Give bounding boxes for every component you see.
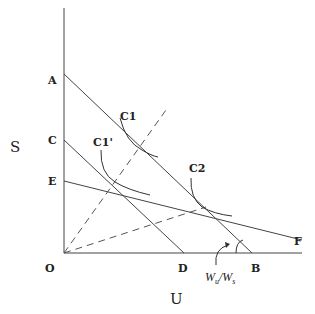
line-ef	[64, 181, 302, 240]
slope-annotation: Wu/Ws	[205, 270, 235, 286]
ray-to-c2	[64, 207, 206, 253]
x-axis-label: U	[170, 290, 183, 308]
point-f-label: F	[294, 235, 302, 248]
point-a-label: A	[47, 74, 57, 87]
point-d-label: D	[178, 262, 188, 275]
indifference-curve-c1-prime	[101, 150, 150, 195]
y-axis-label: S	[10, 138, 20, 156]
slope-angle-arc	[236, 240, 243, 253]
arrow-head-icon	[225, 242, 230, 248]
curve-c1-prime-label: C1'	[93, 136, 113, 149]
origin-label: O	[45, 262, 55, 275]
line-cd	[64, 140, 184, 253]
curve-c1-label: C1	[120, 110, 136, 123]
indifference-curve-c1	[120, 118, 158, 157]
diagram: S U O A C E D B F C1 C1' C2 Wu/Ws	[0, 0, 315, 314]
svg-text:Wu/Ws: Wu/Ws	[205, 270, 235, 286]
curve-c2-label: C2	[189, 162, 205, 175]
line-ab	[64, 74, 252, 253]
slope-pointer-arrow	[216, 245, 228, 265]
point-e-label: E	[48, 175, 56, 188]
indifference-curve-c2	[191, 178, 232, 216]
point-b-label: B	[251, 262, 260, 275]
point-c-label: C	[48, 134, 57, 147]
